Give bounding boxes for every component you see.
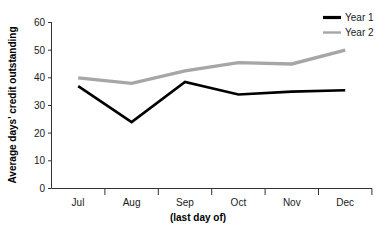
y-tick-label-40: 40 [34,72,46,83]
x-tick-label-nov: Nov [283,197,301,208]
series-line-year-1 [78,50,345,83]
x-tick-label-jul: Jul [72,197,85,208]
legend-label-year-2: Year 2 [345,27,374,38]
y-tick-label-0: 0 [39,183,45,194]
y-tick-label-50: 50 [34,45,46,56]
y-tick-label-30: 30 [34,100,46,111]
y-axis-title: Average days' credit outstanding [7,26,18,183]
y-tick-label-10: 10 [34,155,46,166]
chart-canvas: Average days' credit outstanding 60 50 4… [0,0,388,232]
series-line-year-2 [78,82,345,122]
y-tick-label-20: 20 [34,128,46,139]
y-tick-label-60: 60 [34,17,46,28]
x-tick-label-sep: Sep [176,197,194,208]
legend-label-year-1: Year 1 [345,12,374,23]
x-tick-label-aug: Aug [123,197,141,208]
x-axis-title: (last day of) [170,212,226,223]
x-tick-label-oct: Oct [231,197,247,208]
line-chart: Average days' credit outstanding 60 50 4… [0,0,388,232]
x-tick-label-dec: Dec [336,197,354,208]
